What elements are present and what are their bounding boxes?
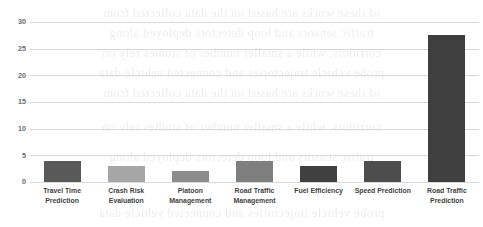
bar-slot xyxy=(222,22,286,182)
category-label-line: Crash Risk xyxy=(95,186,157,196)
category-label-line: Prediction xyxy=(416,196,478,206)
y-axis-tick-label: 25 xyxy=(6,45,26,52)
category-label-line: Management xyxy=(223,196,285,206)
bar[interactable] xyxy=(236,161,273,182)
x-axis-category-label: PlatoonManagement xyxy=(158,186,222,206)
bar[interactable] xyxy=(428,35,465,182)
y-axis-tick-label: 5 xyxy=(6,152,26,159)
x-axis-category-label: Crash RiskEvaluation xyxy=(94,186,158,206)
bar-slot xyxy=(351,22,415,182)
x-axis-category-label: Travel TimePrediction xyxy=(30,186,94,206)
category-label-line: Platoon xyxy=(159,186,221,196)
category-label-line: Road Traffic xyxy=(223,186,285,196)
category-label-line: Evaluation xyxy=(95,196,157,206)
bar-slot xyxy=(158,22,222,182)
x-axis-category-label: Road TrafficPrediction xyxy=(415,186,479,206)
bar[interactable] xyxy=(300,166,337,182)
bar-chart-figure: of these works are based on the data col… xyxy=(0,0,483,227)
category-label-line: Fuel Efficiency xyxy=(288,186,350,196)
y-axis-tick-label: 15 xyxy=(6,98,26,105)
y-axis-tick-label: 0 xyxy=(6,178,26,185)
bar[interactable] xyxy=(364,161,401,182)
bar[interactable] xyxy=(172,171,209,182)
gridline xyxy=(30,182,479,183)
y-axis-tick-label: 30 xyxy=(6,18,26,25)
x-axis-category-label: Road TrafficManagement xyxy=(222,186,286,206)
y-axis-tick-label: 20 xyxy=(6,72,26,79)
plot-area: 051015202530 Travel TimePredictionCrash … xyxy=(0,0,483,227)
bar[interactable] xyxy=(44,161,81,182)
category-label-line: Management xyxy=(159,196,221,206)
bar-slot xyxy=(94,22,158,182)
category-label-line: Road Traffic xyxy=(416,186,478,196)
bar-slot xyxy=(30,22,94,182)
bar-slot xyxy=(415,22,479,182)
x-axis-category-label: Fuel Efficiency xyxy=(287,186,351,206)
category-label-line: Speed Prediction xyxy=(352,186,414,196)
bar[interactable] xyxy=(108,166,145,182)
category-label-line: Prediction xyxy=(31,196,93,206)
x-axis-category-label: Speed Prediction xyxy=(351,186,415,206)
x-axis-category-labels: Travel TimePredictionCrash RiskEvaluatio… xyxy=(30,186,479,206)
bars-container xyxy=(30,22,479,182)
y-axis-tick-label: 10 xyxy=(6,125,26,132)
bar-slot xyxy=(287,22,351,182)
category-label-line: Travel Time xyxy=(31,186,93,196)
